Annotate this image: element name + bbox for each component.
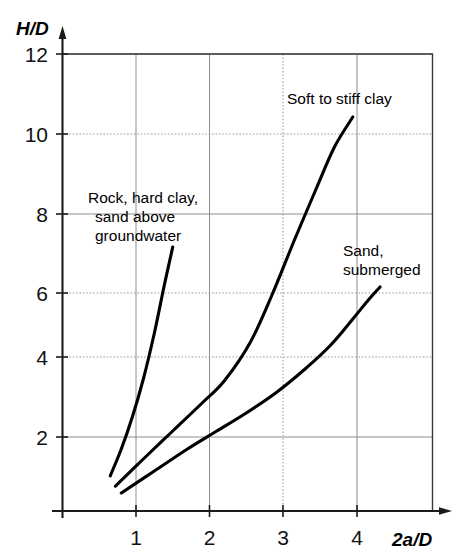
- plot-background: [63, 54, 433, 511]
- x-tick-label-4: 4: [351, 526, 363, 549]
- y-tick-label-2: 2: [36, 426, 48, 449]
- rock-label-line-1: Rock, hard clay,: [88, 189, 198, 206]
- x-axis-arrowhead: [439, 507, 452, 515]
- clay-label-line-1: Soft to stiff clay: [287, 90, 392, 107]
- y-tick-label-6: 6: [36, 282, 48, 305]
- y-axis-title: H/D: [16, 18, 49, 39]
- y-tick-label-8: 8: [36, 203, 48, 226]
- x-tick-labels: 1 2 3 4: [130, 526, 363, 549]
- chart-figure: 12 10 8 6 4 2 1 2 3 4 H/D 2a/D Rock, har…: [0, 0, 465, 555]
- y-tick-label-10: 10: [25, 123, 48, 146]
- x-tick-label-2: 2: [204, 526, 216, 549]
- y-tick-label-12: 12: [25, 43, 48, 66]
- rock-label-line-2: sand above: [95, 208, 175, 225]
- hd-vs-2ad-chart: 12 10 8 6 4 2 1 2 3 4 H/D 2a/D Rock, har…: [0, 0, 465, 555]
- y-axis-arrowhead: [59, 26, 67, 39]
- y-tick-labels: 12 10 8 6 4 2: [25, 43, 49, 449]
- sand-label-line-1: Sand,: [343, 242, 384, 259]
- x-tick-label-3: 3: [277, 526, 289, 549]
- sand-label-line-2: submerged: [343, 261, 421, 278]
- x-tick-label-1: 1: [130, 526, 142, 549]
- y-tick-label-4: 4: [36, 346, 48, 369]
- rock-label-line-3: groundwater: [95, 227, 181, 244]
- x-axis-title: 2a/D: [391, 529, 432, 550]
